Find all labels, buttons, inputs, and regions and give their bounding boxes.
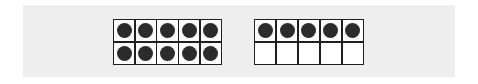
ten-frame-right-cell-r2c4[interactable] bbox=[321, 43, 341, 64]
counter-dot-icon bbox=[182, 46, 197, 61]
counter-dot-icon bbox=[280, 23, 295, 38]
ten-frame-right-cell-r1c2[interactable] bbox=[277, 20, 297, 41]
counter-dot-icon bbox=[160, 23, 175, 38]
counter-dot-icon bbox=[138, 23, 153, 38]
ten-frame-left-cell-r2c5[interactable] bbox=[201, 43, 221, 64]
ten-frame-left-cell-r2c1[interactable] bbox=[114, 43, 134, 64]
ten-frame-right-cell-r2c5[interactable] bbox=[343, 43, 363, 64]
counter-dot-icon bbox=[117, 46, 132, 61]
ten-frame-right-cell-r1c3[interactable] bbox=[299, 20, 319, 41]
ten-frame-left-cell-r1c2[interactable] bbox=[136, 20, 156, 41]
ten-frame-left-cell-r2c4[interactable] bbox=[179, 43, 199, 64]
ten-frame-right-cell-r1c1[interactable] bbox=[255, 20, 275, 41]
ten-frame-right-cell-r2c1[interactable] bbox=[255, 43, 275, 64]
ten-frame-left-cell-r2c2[interactable] bbox=[136, 43, 156, 64]
counter-dot-icon bbox=[138, 46, 153, 61]
counter-dot-icon bbox=[323, 23, 338, 38]
counter-dot-icon bbox=[203, 46, 218, 61]
ten-frames-container bbox=[0, 0, 478, 84]
counter-dot-icon bbox=[203, 23, 218, 38]
ten-frame-right-cell-r2c2[interactable] bbox=[277, 43, 297, 64]
ten-frame-left-cell-r1c5[interactable] bbox=[201, 20, 221, 41]
counter-dot-icon bbox=[301, 23, 316, 38]
ten-frame-left-cell-r1c1[interactable] bbox=[114, 20, 134, 41]
ten-frame-left bbox=[113, 19, 222, 65]
ten-frame-left-cell-r2c3[interactable] bbox=[157, 43, 177, 64]
ten-frame-right-cell-r1c5[interactable] bbox=[343, 20, 363, 41]
ten-frame-left-cell-r1c3[interactable] bbox=[157, 20, 177, 41]
counter-dot-icon bbox=[160, 46, 175, 61]
ten-frame-left-cell-r1c4[interactable] bbox=[179, 20, 199, 41]
counter-dot-icon bbox=[117, 23, 132, 38]
counter-dot-icon bbox=[258, 23, 273, 38]
ten-frame-right-cell-r1c4[interactable] bbox=[321, 20, 341, 41]
ten-frame-right bbox=[254, 19, 364, 65]
ten-frame-right-cell-r2c3[interactable] bbox=[299, 43, 319, 64]
counter-dot-icon bbox=[345, 23, 360, 38]
ten-frame-worksheet bbox=[0, 0, 478, 84]
counter-dot-icon bbox=[182, 23, 197, 38]
